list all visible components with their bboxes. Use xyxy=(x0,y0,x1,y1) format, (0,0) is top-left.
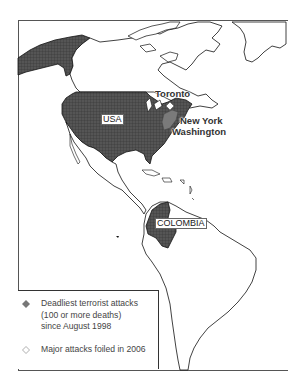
new-york-label: New York xyxy=(180,116,222,126)
toronto-label: Toronto xyxy=(155,89,190,99)
legend-deadliest-line3: since August 1998 xyxy=(41,321,138,333)
legend-deadliest-line1: Deadliest terrorist attacks xyxy=(41,298,138,310)
usa-label: USA xyxy=(101,114,124,125)
legend-deadliest-line2: (100 or more deaths) xyxy=(41,310,138,322)
colombia-label: COLOMBIA xyxy=(155,218,207,229)
open-diamond-icon xyxy=(22,346,30,354)
washington-label: Washington xyxy=(172,127,226,137)
caribbean-islands xyxy=(142,170,194,200)
map-frame: USA Toronto New York Washington COLOMBIA… xyxy=(0,0,303,386)
greenland-outline xyxy=(232,22,286,62)
galapagos-islands xyxy=(116,236,119,238)
filled-diamond-icon xyxy=(22,300,30,308)
legend-foiled-text: Major attacks foiled in 2006 xyxy=(41,344,146,356)
map-legend: Deadliest terrorist attacks (100 or more… xyxy=(18,290,159,369)
